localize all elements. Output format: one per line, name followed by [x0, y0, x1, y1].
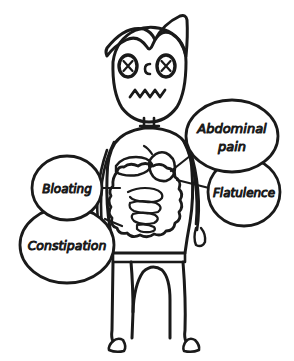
constipation-label: Constipation	[28, 238, 107, 253]
figure-canvas: Constipation Bloating Flatulence Abdomin…	[0, 0, 294, 361]
flatulence-label: Flatulence	[213, 186, 275, 200]
abdominal-pain-bubble-shape	[186, 100, 278, 172]
symptom-bubble-bloating[interactable]: Bloating	[32, 156, 102, 220]
ibs-symptoms-illustration: Constipation Bloating Flatulence Abdomin…	[0, 0, 294, 361]
symptom-bubble-abdominal-pain[interactable]: Abdominal pain	[186, 100, 278, 172]
abdominal-pain-label-line1: Abdominal	[196, 121, 267, 136]
left-leg-outer	[112, 262, 113, 341]
abdominal-pain-label-line2: pain	[217, 139, 246, 154]
bloating-label: Bloating	[42, 182, 92, 196]
